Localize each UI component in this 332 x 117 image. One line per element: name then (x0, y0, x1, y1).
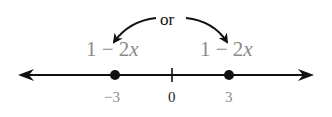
point-neg3-dot (110, 70, 120, 80)
tick-label-0: 0 (168, 89, 176, 106)
number-line-diagram: or 1 − 2x 1 − 2x −3 0 3 (0, 0, 332, 117)
point-3-dot (224, 70, 234, 80)
expression-left: 1 − 2x (86, 37, 139, 62)
expression-right: 1 − 2x (200, 37, 253, 62)
tick-label-3: 3 (225, 89, 233, 106)
tick-label-neg3: −3 (104, 89, 120, 106)
or-label: or (160, 10, 174, 30)
